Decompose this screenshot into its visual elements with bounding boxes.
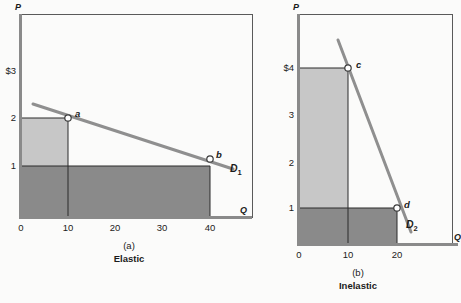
panel-a-demand-curve-letter: D: [230, 162, 238, 174]
panel-b-point-c-label: c: [356, 60, 361, 70]
panel-a-y-axis-label: P: [15, 3, 21, 12]
panel-a-dark-shaded-region: [21, 166, 210, 217]
panel-b-caption-name: Inelastic: [268, 280, 448, 293]
panel-b-y-tick-1: 1: [264, 203, 294, 213]
panel-b-x-axis-label: Q: [454, 233, 461, 242]
panel-b-point-d-marker: [394, 205, 400, 211]
panel-b-caption-letter: (b): [268, 267, 448, 280]
panel-a-point-b-label: b: [216, 150, 222, 160]
panel-a-demand-curve-subscript: 1: [238, 168, 242, 177]
panel-b-point-c-marker: [345, 65, 351, 71]
panel-a-caption-name: Elastic: [0, 253, 258, 266]
panel-a-y-tick-1: 1: [0, 161, 16, 171]
panel-b-y-tick-4: $4: [264, 63, 294, 73]
panel-a-y-tick-3: $3: [0, 66, 16, 76]
panel-a-x-tick-0: 0: [6, 223, 36, 233]
panel-b-plot: [278, 0, 458, 260]
panel-b-light-shaded-region: [299, 68, 348, 208]
panel-a-plot: [0, 0, 258, 250]
panel-b-demand-curve-label: D2: [406, 219, 418, 233]
panel-a-x-tick-20: 20: [100, 223, 130, 233]
panel-a-caption-letter: (a): [0, 240, 258, 253]
panel-b-demand-curve-subscript: 2: [414, 224, 418, 233]
panel-b-x-tick-10: 10: [333, 250, 363, 260]
panel-b-y-tick-2: 2: [264, 158, 294, 168]
panel-a-demand-curve-label: D1: [230, 163, 242, 177]
panel-a-x-tick-30: 30: [147, 223, 177, 233]
panel-b-demand-curve-letter: D: [406, 218, 414, 230]
panel-inelastic: P Q $4 3 2 1 0 10 20 c d D2 (b) Inelasti…: [278, 0, 458, 303]
panel-a-caption: (a) Elastic: [0, 240, 258, 266]
panel-a-x-axis-label: Q: [240, 206, 247, 215]
panel-a-y-tick-2: 2: [0, 113, 16, 123]
panel-a-x-tick-40: 40: [195, 223, 225, 233]
panel-b-y-tick-3: 3: [264, 110, 294, 120]
panel-a-point-a-marker: [65, 115, 71, 121]
panel-b-caption: (b) Inelastic: [268, 267, 448, 293]
panel-a-x-tick-10: 10: [53, 223, 83, 233]
panel-elastic: P Q $3 2 1 0 10 20 30 40 a b D1 (a) Elas…: [0, 0, 258, 303]
panel-b-x-tick-20: 20: [382, 250, 412, 260]
panel-a-light-shaded-region: [21, 118, 68, 166]
panel-b-y-axis-label: P: [293, 3, 299, 12]
panel-b-x-tick-0: 0: [284, 250, 314, 260]
panel-a-point-b-marker: [207, 156, 213, 162]
panel-b-point-d-label: d: [404, 200, 410, 210]
panel-a-point-a-label: a: [75, 109, 80, 119]
